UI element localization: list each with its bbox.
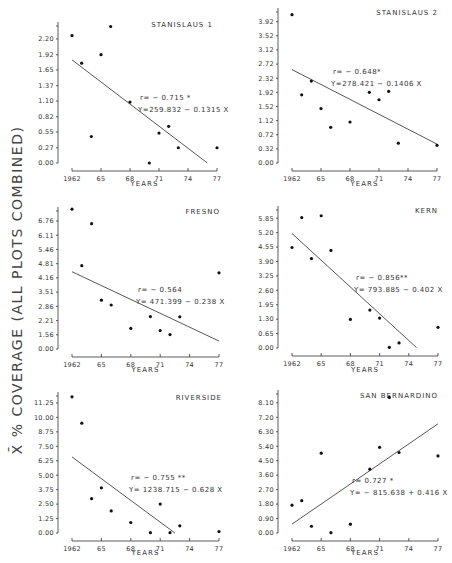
regression-line <box>72 457 175 533</box>
data-point <box>329 126 332 129</box>
y-tick-label: 4.50 <box>258 457 274 465</box>
y-tick-label: 0.00 <box>258 159 274 167</box>
data-point <box>300 216 303 219</box>
y-tick-label: 8.75 <box>38 428 54 436</box>
regression-equation: Y=259.832 − 0.1315 X <box>137 106 229 114</box>
data-point <box>388 346 391 349</box>
correlation-label: r= − 0.564 <box>138 286 182 294</box>
x-axis-title: YEARS <box>350 366 379 374</box>
data-point <box>217 271 220 274</box>
panel-title: FRESNO <box>185 208 220 216</box>
y-tick-label: 1.10 <box>38 97 54 105</box>
y-axis-label: X̄ % COVERAGE (ALL PLOTS COMBINED) <box>8 126 25 455</box>
correlation-label: r= − 0.648* <box>333 68 381 76</box>
y-tick-label: 2.86 <box>38 303 54 311</box>
y-tick-label: 0.00 <box>38 529 54 537</box>
data-point <box>148 161 151 164</box>
y-tick-label: 6.76 <box>38 217 54 225</box>
x-tick-label: 65 <box>317 545 326 553</box>
x-tick-label: 1962 <box>283 545 301 553</box>
x-axis-title: YEARS <box>131 549 160 557</box>
data-point <box>388 396 391 399</box>
x-tick-label: 1962 <box>283 175 301 183</box>
data-point <box>149 531 152 534</box>
y-tick-label: 2.21 <box>38 317 54 325</box>
x-tick-label: 74 <box>185 545 194 553</box>
correlation-label: r= − 0.755 ** <box>131 474 186 482</box>
x-tick-label: 74 <box>404 545 413 553</box>
data-point <box>167 125 170 128</box>
regression-line <box>292 424 438 524</box>
data-point <box>290 504 293 507</box>
y-tick-label: 3.25 <box>258 272 274 280</box>
panel-stanislaus-2: 0.000.320.721.121.521.922.322.723.123.52… <box>258 8 441 188</box>
x-tick-label: 74 <box>185 361 194 369</box>
data-point <box>168 333 171 336</box>
y-tick-label: 0.27 <box>38 144 54 152</box>
y-tick-label: 2.60 <box>258 287 274 295</box>
data-point <box>110 509 113 512</box>
data-point <box>300 499 303 502</box>
regression-equation: Y= 1238.715 − 0.628 X <box>128 486 223 494</box>
y-tick-label: 8.10 <box>258 399 274 407</box>
y-tick-label: 7.20 <box>258 414 274 422</box>
x-tick-label: 74 <box>184 175 193 183</box>
y-tick-label: 0.00 <box>38 159 54 167</box>
regression-equation: Y= − 815.638 + 0.416 X <box>349 489 448 497</box>
panel-kern: 0.000.651.301.952.603.253.904.555.205.85… <box>258 206 442 374</box>
data-point <box>70 34 73 37</box>
y-tick-label: 6.25 <box>38 457 54 465</box>
panel-stanislaus-1: 0.000.270.550.821.101.371.651.922.201962… <box>38 21 229 188</box>
data-point <box>159 329 162 332</box>
x-tick-label: 1962 <box>63 361 81 369</box>
data-point <box>348 120 351 123</box>
x-tick-label: 1962 <box>63 545 81 553</box>
data-point <box>168 531 171 534</box>
y-tick-label: 1.25 <box>38 515 54 523</box>
data-point <box>329 531 332 534</box>
y-tick-label: 11.25 <box>34 399 54 407</box>
panel-riverside: 0.001.252.503.755.006.257.508.7510.0011.… <box>34 392 224 557</box>
regression-line <box>72 272 219 341</box>
data-point <box>368 91 371 94</box>
data-point <box>177 146 180 149</box>
y-tick-label: 5.46 <box>38 246 54 254</box>
y-tick-label: 5.85 <box>258 215 274 223</box>
x-tick-label: 77 <box>213 175 222 183</box>
panel-title: KERN <box>415 207 438 215</box>
y-tick-label: 1.92 <box>38 51 54 59</box>
data-point <box>290 13 293 16</box>
y-tick-label: 5.40 <box>258 443 274 451</box>
data-point <box>178 315 181 318</box>
x-axis-title: YEARS <box>131 366 160 374</box>
data-point <box>378 316 381 319</box>
data-point <box>349 523 352 526</box>
y-tick-label: 0.65 <box>258 330 274 338</box>
data-point <box>157 132 160 135</box>
data-point <box>128 100 131 103</box>
y-tick-label: 0.00 <box>38 345 54 353</box>
y-tick-label: 2.70 <box>258 486 274 494</box>
data-point <box>100 486 103 489</box>
panel-title: RIVERSIDE <box>176 394 222 402</box>
x-tick-label: 65 <box>97 175 106 183</box>
data-point <box>80 264 83 267</box>
y-tick-label: 0.00 <box>258 344 274 352</box>
data-point <box>435 144 438 147</box>
y-tick-label: 0.82 <box>38 113 54 121</box>
y-tick-label: 1.12 <box>258 117 274 125</box>
data-point <box>378 446 381 449</box>
y-tick-label: 6.30 <box>258 428 274 436</box>
data-point <box>149 315 152 318</box>
y-tick-label: 1.30 <box>258 315 274 323</box>
regression-equation: Y= 471.399 − 0.238 X <box>135 298 225 306</box>
data-point <box>320 452 323 455</box>
y-tick-label: 10.00 <box>34 414 54 422</box>
y-tick-label: 5.00 <box>38 472 54 480</box>
data-point <box>215 146 218 149</box>
y-tick-label: 4.81 <box>38 260 54 268</box>
x-tick-label: 77 <box>434 360 443 368</box>
y-tick-label: 2.50 <box>38 500 54 508</box>
y-tick-label: 7.50 <box>38 443 54 451</box>
data-point <box>310 79 313 82</box>
